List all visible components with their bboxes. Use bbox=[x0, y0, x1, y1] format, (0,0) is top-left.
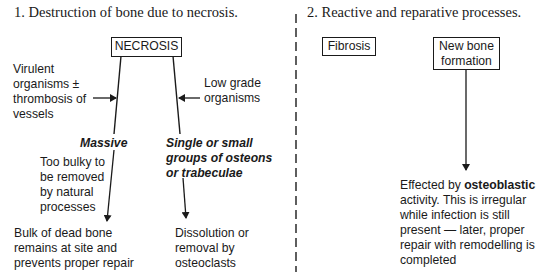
single-label-line: or trabeculae bbox=[166, 166, 272, 181]
right-cause-line: organisms bbox=[204, 91, 261, 106]
single-label-line: groups of osteons bbox=[166, 151, 272, 166]
new-bone-outcome: Effected by osteoblastic activity. This … bbox=[400, 178, 535, 268]
left-cause-line: thrombosis of bbox=[13, 92, 86, 107]
necrosis-right-line bbox=[173, 56, 180, 134]
fibrosis-box: Fibrosis bbox=[322, 37, 376, 56]
massive-outcome: Bulk of dead bone remains at site and pr… bbox=[14, 226, 134, 271]
necrosis-left-line bbox=[114, 56, 121, 134]
new-bone-outcome-line: present — later, proper bbox=[400, 223, 535, 238]
left-cause-line: Virulent bbox=[13, 62, 86, 77]
necrosis-box: NECROSIS bbox=[111, 37, 182, 57]
necrosis-label: NECROSIS bbox=[115, 39, 179, 53]
new-bone-label-line: formation bbox=[434, 54, 499, 69]
new-bone-outcome-line: Effected by osteoblastic bbox=[400, 178, 535, 193]
right-cause-line: Low grade bbox=[204, 76, 261, 91]
outcome-prefix: Effected by bbox=[400, 178, 464, 192]
massive-outcome-line: remains at site and bbox=[14, 241, 134, 256]
single-small-label: Single or small groups of osteons or tra… bbox=[166, 136, 272, 181]
massive-outcome-line: Bulk of dead bone bbox=[14, 226, 134, 241]
massive-label: Massive bbox=[80, 136, 127, 151]
single-arrow bbox=[183, 178, 186, 218]
single-outcome: Dissolution or removal by osteoclasts bbox=[175, 226, 249, 271]
single-outcome-line: osteoclasts bbox=[175, 256, 249, 271]
left-cause-text: Virulent organisms ± thrombosis of vesse… bbox=[13, 62, 86, 122]
massive-note-line: be removed bbox=[40, 170, 105, 185]
new-bone-outcome-line: repair with remodelling is bbox=[400, 238, 535, 253]
cutoff-text-line bbox=[0, 0, 4, 6]
single-outcome-line: removal by bbox=[175, 241, 249, 256]
massive-note-line: Too bulky to bbox=[40, 155, 105, 170]
left-cause-line: vessels bbox=[13, 107, 86, 122]
new-bone-outcome-line: while infection is still bbox=[400, 208, 535, 223]
fibrosis-label: Fibrosis bbox=[328, 39, 371, 53]
massive-outcome-line: prevents proper repair bbox=[14, 256, 134, 271]
single-label-line: Single or small bbox=[166, 136, 272, 151]
massive-note-line: by natural bbox=[40, 185, 105, 200]
new-bone-outcome-line: activity. This is irregular bbox=[400, 193, 535, 208]
massive-note: Too bulky to be removed by natural proce… bbox=[40, 155, 105, 215]
osteoblastic-term: osteoblastic bbox=[464, 178, 535, 192]
section2-heading: 2. Reactive and reparative processes. bbox=[307, 4, 521, 21]
new-bone-box: New bone formation bbox=[433, 37, 500, 70]
single-outcome-line: Dissolution or bbox=[175, 226, 249, 241]
left-cause-line: organisms ± bbox=[13, 77, 86, 92]
section1-heading: 1. Destruction of bone due to necrosis. bbox=[14, 4, 238, 21]
massive-note-line: processes bbox=[40, 200, 105, 215]
new-bone-outcome-line: completed bbox=[400, 253, 535, 268]
massive-arrow bbox=[107, 150, 114, 221]
new-bone-label-line: New bone bbox=[434, 39, 499, 54]
right-cause-text: Low grade organisms bbox=[204, 76, 261, 106]
